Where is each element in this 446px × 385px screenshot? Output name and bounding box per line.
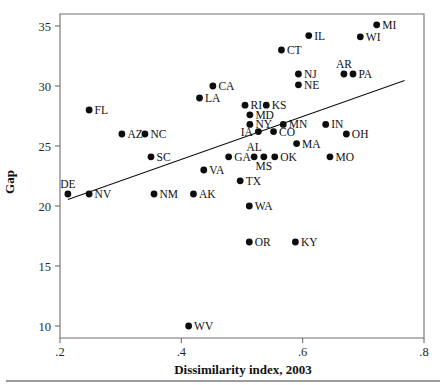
scatter-point: CT <box>278 44 302 56</box>
false <box>373 21 380 28</box>
y-tick-label: 10 <box>39 320 52 334</box>
point-label: MO <box>335 151 354 163</box>
point-label: CO <box>279 126 295 138</box>
point-label: DE <box>60 178 75 190</box>
false <box>246 111 253 118</box>
point-label: PA <box>359 68 373 80</box>
false <box>350 71 357 78</box>
regression-fit-line <box>68 81 405 200</box>
false <box>86 191 93 198</box>
false <box>278 47 285 54</box>
point-label: MI <box>382 19 396 31</box>
point-label: NM <box>160 188 179 200</box>
scatter-point: MA <box>293 138 321 150</box>
scatter-point: MI <box>373 19 396 31</box>
scatter-point: WV <box>185 320 214 332</box>
scatter-plot-figure: 101520253035.2.4.6.8 MIWIILCTNJNEARPACAL… <box>0 0 446 385</box>
false <box>200 167 207 174</box>
point-label: IN <box>331 118 344 130</box>
false <box>357 33 364 40</box>
point-label: KY <box>301 236 318 248</box>
false <box>118 131 125 138</box>
scatter-point: WA <box>246 200 273 212</box>
false <box>343 131 350 138</box>
point-label: IA <box>241 126 254 138</box>
false <box>246 239 253 246</box>
scatter-point: NC <box>142 128 167 140</box>
scatter-point: MS <box>256 153 273 171</box>
data-points: MIWIILCTNJNEARPACALAFLRIKSMDNYMNAZNCINOH… <box>60 19 396 332</box>
false <box>225 153 232 160</box>
y-tick-label: 15 <box>39 260 52 274</box>
false <box>327 153 334 160</box>
scatter-point: WI <box>357 31 381 43</box>
scatter-point: PA <box>350 68 373 80</box>
false <box>196 95 203 102</box>
false <box>270 128 277 135</box>
false <box>293 140 300 147</box>
scatter-point: OR <box>246 236 271 248</box>
scatter-point: CA <box>209 80 235 92</box>
false <box>185 323 192 330</box>
y-tick-label: 25 <box>39 140 52 154</box>
false <box>86 107 93 114</box>
point-label: AL <box>246 141 261 153</box>
y-axis-title: Gap <box>2 170 17 194</box>
false <box>271 153 278 160</box>
point-label: OR <box>255 236 271 248</box>
false <box>295 81 302 88</box>
x-tick-label: .8 <box>419 345 428 359</box>
scatter-point: IL <box>305 30 325 42</box>
false <box>242 102 249 109</box>
x-tick-label: .4 <box>177 345 187 359</box>
point-label: KS <box>272 99 287 111</box>
scatter-point: NV <box>86 188 112 200</box>
point-label: AR <box>336 58 352 70</box>
false <box>295 71 302 78</box>
x-tick-label: .6 <box>298 345 307 359</box>
regression-line <box>68 81 405 200</box>
scatter-point: OH <box>343 128 369 140</box>
false <box>255 128 262 135</box>
point-label: OH <box>352 128 369 140</box>
point-label: CT <box>287 44 302 56</box>
scatter-point: MO <box>327 151 354 163</box>
y-tick-label: 35 <box>39 20 52 34</box>
false <box>148 153 155 160</box>
point-label: MA <box>302 138 321 150</box>
point-label: LA <box>205 92 221 104</box>
false <box>64 191 71 198</box>
scatter-point: TX <box>237 175 262 187</box>
plot-frame <box>60 14 424 338</box>
point-label: WA <box>255 200 274 212</box>
false <box>190 191 197 198</box>
false <box>142 131 149 138</box>
false <box>292 239 299 246</box>
point-label: AK <box>199 188 216 200</box>
point-label: SC <box>157 151 171 163</box>
scatter-point: LA <box>196 92 221 104</box>
x-tick-label: .2 <box>55 345 64 359</box>
x-axis-title: Dissimilarity index, 2003 <box>174 362 312 377</box>
scatter-point: KY <box>292 236 318 248</box>
point-label: WV <box>194 320 214 332</box>
false <box>341 71 348 78</box>
false <box>305 32 312 39</box>
scatter-point: NE <box>295 79 319 91</box>
point-label: CA <box>218 80 235 92</box>
scatter-point: AK <box>190 188 216 200</box>
point-label: FL <box>95 104 108 116</box>
plot-canvas: 101520253035.2.4.6.8 MIWIILCTNJNEARPACAL… <box>0 0 446 385</box>
point-label: AZ <box>127 128 142 140</box>
y-tick-label: 20 <box>39 200 52 214</box>
scatter-point: IN <box>322 118 344 130</box>
false <box>322 121 329 128</box>
false <box>209 83 216 90</box>
scatter-point: AZ <box>118 128 142 140</box>
point-label: WI <box>366 31 381 43</box>
point-label: OK <box>280 151 297 163</box>
scatter-point: CO <box>270 126 295 138</box>
scatter-point: NM <box>151 188 178 200</box>
point-label: NE <box>304 79 319 91</box>
scatter-point: VA <box>200 164 225 176</box>
